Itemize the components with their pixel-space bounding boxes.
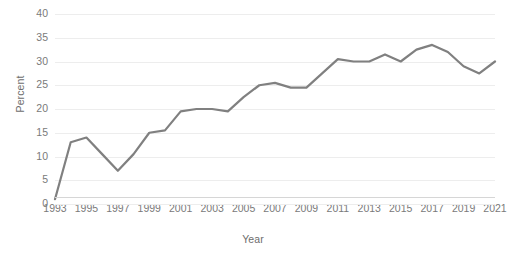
y-axis-tick-label: 5 [22,174,48,185]
y-axis-tick-label: 40 [22,8,48,19]
y-axis-tick-label: 20 [22,103,48,114]
x-axis-line [55,197,495,198]
y-axis-tick-label: 10 [22,151,48,162]
y-axis-tick-label: 25 [22,79,48,90]
y-axis-tick-label: 30 [22,56,48,67]
data-series-line [55,14,495,204]
y-axis-tick-label: 35 [22,32,48,43]
plot-area [55,14,495,204]
gridline [55,204,495,205]
y-axis-tick-label: 15 [22,127,48,138]
x-axis-title: Year [0,233,506,245]
